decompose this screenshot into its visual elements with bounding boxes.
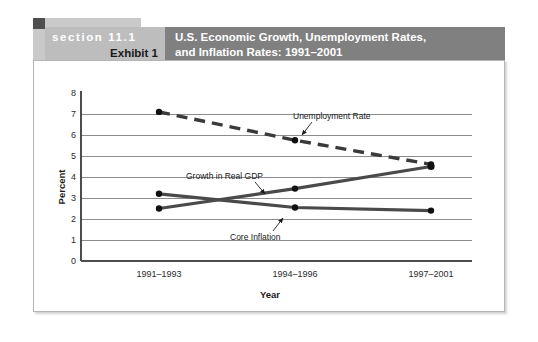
y-tick-5: 5 [56,151,76,161]
exhibit-label: Exhibit 1 [52,46,158,60]
y-tick-7: 7 [56,109,76,119]
x-axis-title: Year [34,289,506,300]
core-inflation-point-2 [428,207,434,213]
x-tick-2: 1997–2001 [381,269,481,279]
annotation-core-inflation: Core Inflation [230,232,281,242]
title-line-1: U.S. Economic Growth, Unemployment Rates… [175,31,426,43]
x-tick-0: 1991–1993 [109,269,209,279]
y-tick-3: 3 [56,193,76,203]
y-tick-0: 0 [56,256,76,266]
y-tick-6: 6 [56,130,76,140]
growth-in-real-gdp-point-2 [427,163,434,170]
y-tick-2: 2 [56,214,76,224]
title-line-2: and Inflation Rates: 1991–2001 [175,45,500,60]
header-corner-square [33,18,45,29]
core-inflation-point-0 [156,191,162,197]
unemployment-rate-point-1 [292,137,298,143]
exhibit-title: U.S. Economic Growth, Unemployment Rates… [175,30,500,60]
exhibit-figure: section 11.1 Exhibit 1 U.S. Economic Gro… [0,0,538,342]
core-inflation-point-1 [292,204,298,210]
y-tick-8: 8 [56,88,76,98]
plot-area: Percent Year 8 7 6 5 4 3 2 1 0 1991–1993… [34,61,506,313]
unemployment-rate-point-0 [156,109,162,115]
arrow-core-inflation [273,218,283,231]
growth-in-real-gdp-point-0 [156,205,162,211]
chart-panel: Percent Year 8 7 6 5 4 3 2 1 0 1991–1993… [33,60,505,312]
gridlines [81,114,472,240]
annotation-unemployment-rate: Unemployment Rate [293,111,370,121]
growth-in-real-gdp-point-1 [292,185,298,191]
y-tick-4: 4 [56,172,76,182]
x-tick-1: 1994–1996 [245,269,345,279]
annotation-growth-real-gdp: Growth in Real GDP [186,171,263,181]
y-tick-1: 1 [56,235,76,245]
section-label: section 11.1 [52,30,158,44]
arrow-unemployment-rate [302,122,312,135]
